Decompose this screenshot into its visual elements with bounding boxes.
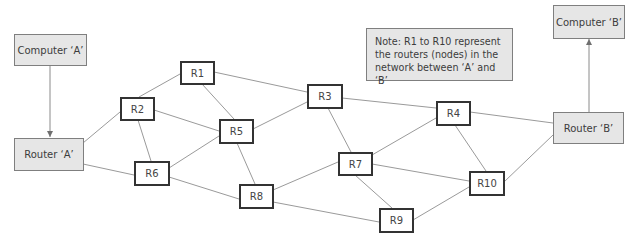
link-r5-r3 xyxy=(253,102,307,129)
link-r2-r1 xyxy=(139,74,180,97)
computer-a-box: Computer ‘A’ xyxy=(14,34,87,66)
network-diagram xyxy=(0,0,633,243)
router-node-r9: R9 xyxy=(379,208,414,233)
link-r2-r6 xyxy=(138,120,151,161)
note-box: Note: R1 to R10 represent the routers (n… xyxy=(366,28,513,81)
router-node-r2: R2 xyxy=(120,97,155,121)
router-node-r8: R8 xyxy=(239,184,274,209)
link-r10-routerB xyxy=(504,135,553,182)
computer-b-box: Computer ‘B’ xyxy=(553,5,625,39)
link-r8-r7 xyxy=(273,162,338,190)
link-r6-r5 xyxy=(169,136,219,168)
link-r6-r8 xyxy=(169,177,239,199)
link-r7-r9 xyxy=(355,175,392,208)
link-r3-r7 xyxy=(328,108,351,152)
link-r3-r4 xyxy=(342,98,436,108)
link-r2-r5 xyxy=(154,110,219,131)
router-node-r6: R6 xyxy=(134,161,170,186)
link-r7-r4 xyxy=(372,118,436,155)
link-r4-r10 xyxy=(455,125,486,171)
router-node-r1: R1 xyxy=(180,61,215,85)
link-r1-r5 xyxy=(202,84,234,119)
router-node-r7: R7 xyxy=(338,152,373,176)
router-node-r5: R5 xyxy=(219,119,254,144)
link-r1-r3 xyxy=(214,72,307,92)
link-routerA-r6 xyxy=(83,164,134,175)
router-node-r3: R3 xyxy=(307,84,343,109)
link-r9-r10 xyxy=(413,187,469,220)
link-routerA-r2 xyxy=(83,112,120,143)
router-node-r4: R4 xyxy=(436,101,471,126)
link-r7-r10 xyxy=(372,164,469,181)
link-r4-routerB xyxy=(470,112,553,123)
router-node-r10: R10 xyxy=(469,171,505,196)
router-b-box: Router ‘B’ xyxy=(553,112,624,144)
router-a-box: Router ‘A’ xyxy=(14,138,84,171)
link-r8-r9 xyxy=(273,202,379,222)
link-r5-r8 xyxy=(237,143,255,184)
